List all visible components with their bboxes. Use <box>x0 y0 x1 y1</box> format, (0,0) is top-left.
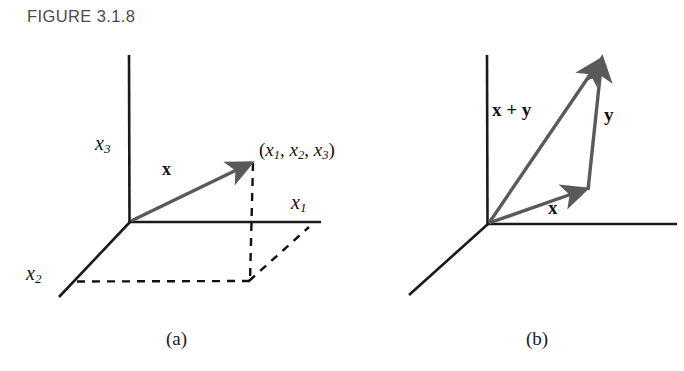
dashed-horizontal-base-a <box>70 281 250 282</box>
caption-panel-b: (b) <box>526 328 548 350</box>
coord-close-paren: ) <box>328 139 334 160</box>
vector-label-x-plus-y-b: x + y <box>492 100 531 119</box>
axis-x2-line-b <box>409 224 488 295</box>
vector-label-x-b: x <box>548 198 558 217</box>
axis-label-x1-a-sub: 1 <box>300 200 307 215</box>
caption-panel-a: (a) <box>166 328 187 350</box>
panel-a-axes <box>59 55 321 297</box>
axis-label-x2-a-letter: x <box>26 262 35 284</box>
axis-label-x1-a: x1 <box>291 192 306 215</box>
coord-sep-2: , <box>304 139 314 160</box>
figure-drawing <box>0 0 684 371</box>
vector-label-y-b: y <box>604 105 614 124</box>
axis-label-x3-a-sub: 3 <box>104 141 111 156</box>
panel-a-vector-x <box>131 163 251 221</box>
vector-x-plus-y-arrow-b <box>489 60 600 223</box>
axis-x3-line-a <box>129 55 130 222</box>
panel-b-vectors <box>489 58 602 223</box>
axis-label-x2-a: x2 <box>26 263 41 286</box>
point-coordinate-label-a: (x1, x2, x3) <box>259 140 335 162</box>
axis-x3-line-b <box>487 55 488 224</box>
coord-x2-letter: x <box>290 139 298 160</box>
vector-x-arrow-b <box>489 189 586 223</box>
figure-container: FIGURE 3.1.8 <box>0 0 684 371</box>
coord-sep-1: , <box>280 139 290 160</box>
axis-label-x3-a-letter: x <box>95 132 104 154</box>
vector-x-arrow-a <box>131 163 251 221</box>
coord-x3-letter: x <box>314 139 322 160</box>
vector-y-arrow-b <box>588 58 602 190</box>
axis-label-x1-a-letter: x <box>291 191 300 213</box>
panel-b-axes <box>409 55 677 295</box>
axis-label-x2-a-sub: 2 <box>35 271 42 286</box>
coord-x1-letter: x <box>265 139 273 160</box>
dashed-diagonal-base-a <box>249 227 309 281</box>
vector-label-x-a: x <box>162 160 171 178</box>
axis-x2-line-a <box>59 222 130 297</box>
axis-label-x3-a: x3 <box>95 133 110 156</box>
